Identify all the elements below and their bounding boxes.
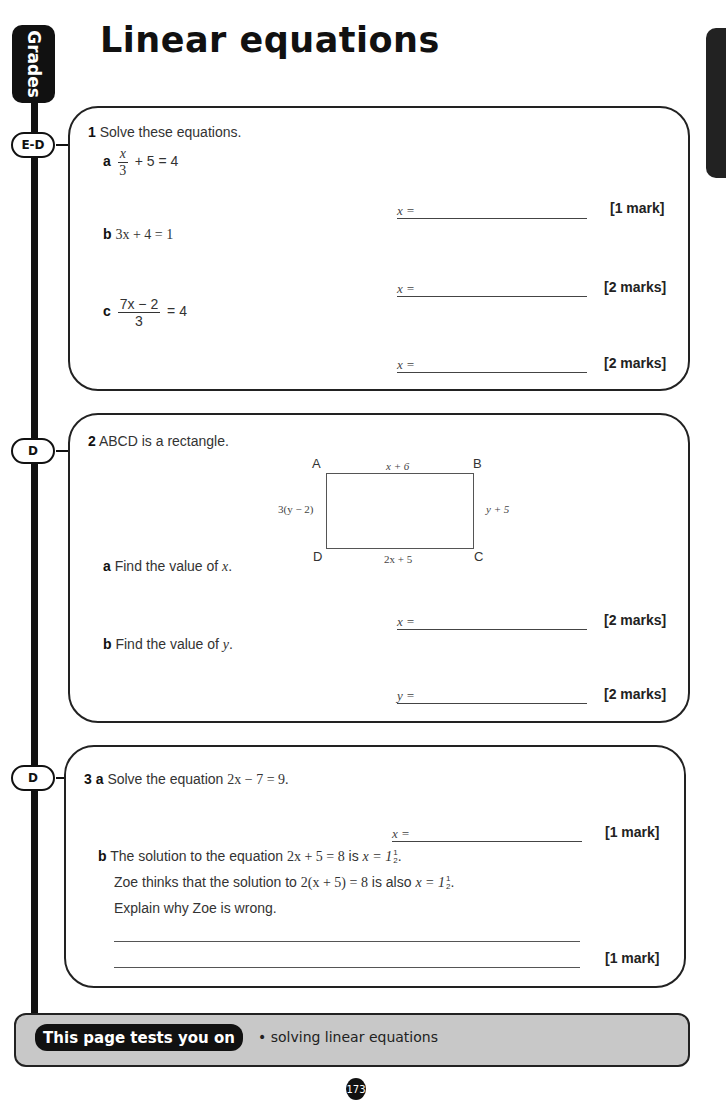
grades-label: Grades [24,30,44,98]
q3b-instruction: Explain why Zoe is wrong. [114,900,277,916]
grade-spine [31,100,38,1015]
q3a-question: Solve the equation [107,771,223,787]
q2b-var: y [223,637,229,652]
q2a-text: a Find the value of x. [103,558,232,575]
q3b-line2-mid: is also [372,874,412,890]
q2b-answer-label: y = [397,688,415,703]
q2b-question: Find the value of [115,636,219,652]
frac-den: 2 [393,857,397,865]
q3b-line1-solution: x = 1 [363,849,393,864]
q1-prompt-text: Solve these equations. [100,124,242,140]
q1a-answer-field[interactable]: x = [397,200,587,219]
q1c-numerator: 7x − 2 [118,296,161,313]
q1a-fraction: x 3 [118,146,128,179]
q2-prompt-text: ABCD is a rectangle. [99,433,229,449]
q1b-equation: b 3x + 4 = 1 [103,226,173,243]
grade-badge-q1: E-D [11,132,55,158]
q2-number: 2 [88,433,96,449]
rectangle-abcd [326,473,474,549]
chapter-edge-tab [706,28,726,178]
q3b-marks: [1 mark] [605,950,659,966]
page-title: Linear equations [100,20,440,60]
q1a-denominator: 3 [119,163,126,179]
vertex-b: B [473,456,482,471]
q1a-numerator: x [118,146,128,163]
vertex-d: D [313,549,322,564]
q3b-line1-equation: 2x + 5 = 8 [287,849,345,864]
q1a-rest: + 5 = 4 [135,153,179,169]
q1b-equation-text: 3x + 4 = 1 [115,227,173,242]
q3a-equation: 2x − 7 = 9. [227,772,288,787]
q3b-answer-line-1[interactable] [114,940,580,942]
q1c-equation: c 7x − 2 3 = 4 [103,296,187,329]
side-left-label: 3(y − 2) [278,503,314,515]
q1-number: 1 [88,124,96,140]
page-number: 173 [346,1078,366,1100]
q3-number: 3 [84,771,92,787]
grades-side-tab: Grades [12,25,55,103]
q3b-line1-mid: is [349,848,359,864]
q2b-text: b Find the value of y. [103,636,233,653]
footer-topic: • solving linear equations [258,1029,438,1045]
q1b-answer-label: x = [397,281,415,296]
q2a-var: x [222,559,228,574]
q2a-marks: [2 marks] [604,612,666,628]
q1a-answer-label: x = [397,203,415,218]
q1c-rest: = 4 [167,303,187,319]
side-right-label: y + 5 [486,503,509,515]
q1c-letter: c [103,303,111,319]
q2a-answer-label: x = [397,614,415,629]
q1c-answer-label: x = [397,357,415,372]
q3b-line2: Zoe thinks that the solution to 2(x + 5)… [114,874,454,891]
q2b-marks: [2 marks] [604,686,666,702]
vertex-c: C [474,549,483,564]
q3b-answer-line-2[interactable] [114,966,580,968]
q3a-marks: [1 mark] [605,824,659,840]
half-fraction: 12 [393,849,397,865]
grade-badge-q2: D [11,438,55,464]
q1c-denominator: 3 [135,313,143,329]
q3a-answer-field[interactable]: x = [392,823,582,842]
footer-label: This page tests you on [35,1024,243,1051]
q3b-line2-text: Zoe thinks that the solution to [114,874,297,890]
q1a-marks: [1 mark] [610,200,664,216]
q3a-answer-label: x = [392,826,410,841]
q3a-text: 3 a Solve the equation 2x − 7 = 9. [84,771,289,788]
vertex-a: A [312,456,321,471]
side-top-label: x + 6 [386,460,409,472]
q1a-letter: a [103,153,111,169]
q1c-marks: [2 marks] [604,355,666,371]
side-bottom-label: 2x + 5 [384,553,412,565]
q2-prompt: 2 ABCD is a rectangle. [88,433,229,449]
q1a-equation: a x 3 + 5 = 4 [103,146,178,179]
q1-prompt: 1 Solve these equations. [88,124,241,140]
frac-den: 2 [446,883,450,891]
q1b-letter: b [103,226,112,242]
q3b-line1: b The solution to the equation 2x + 5 = … [98,848,402,865]
q3b-letter: b [98,848,107,864]
q2b-answer-field[interactable]: y = [397,685,587,704]
q1c-fraction: 7x − 2 3 [118,296,161,329]
half-fraction: 12 [446,875,450,891]
q2a-question: Find the value of [115,558,219,574]
q3b-line2-equation: 2(x + 5) = 8 [301,875,368,890]
grade-badge-q3: D [11,765,55,791]
q2a-letter: a [103,558,111,574]
q1b-marks: [2 marks] [604,279,666,295]
q3b-line2-solution: x = 1 [415,875,445,890]
q2a-answer-field[interactable]: x = [397,611,587,630]
q2b-letter: b [103,636,112,652]
q3a-letter: a [96,771,104,787]
q3b-line1-text: The solution to the equation [110,848,283,864]
q1c-answer-field[interactable]: x = [397,354,587,373]
q1b-answer-field[interactable]: x = [397,278,587,297]
